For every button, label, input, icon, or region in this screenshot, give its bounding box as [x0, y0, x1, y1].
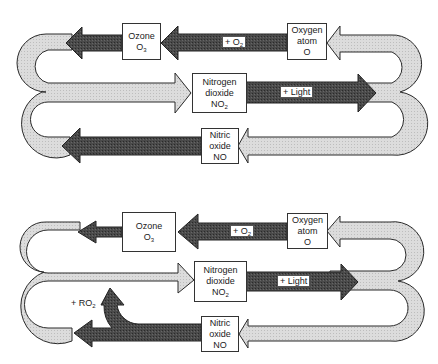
nitric-label: Nitric [210, 130, 231, 141]
oxide-label: oxide [209, 141, 231, 152]
nitric-oxide-box: Nitric oxide NO [201, 128, 239, 164]
ozone-label: Ozone [136, 221, 163, 232]
ozone-box: Ozone O3 [122, 212, 176, 252]
nitrogen-dioxide-box: Nitrogen dioxide NO2 [192, 73, 247, 113]
oxygen-label: Oxygen [292, 215, 323, 226]
arrow-no-to-left [74, 288, 201, 347]
oxygen-atom-box: Oxygen atom O [287, 23, 327, 60]
atom-label: atom [297, 226, 317, 237]
oxygen-atom-box: Oxygen atom O [287, 213, 328, 249]
nitrogen-label: Nitrogen [202, 77, 236, 88]
arrow-ozone-to-left [78, 221, 122, 243]
dioxide-label: dioxide [206, 276, 235, 287]
no-formula: NO [213, 152, 227, 163]
no2-formula: NO2 [212, 287, 229, 298]
oxygen-formula: O [303, 47, 310, 58]
atom-label: atom [297, 36, 317, 47]
nitric-label: Nitric [210, 318, 231, 329]
no2-formula: NO2 [211, 99, 228, 110]
arrow-no-to-left [62, 128, 201, 163]
plus-o2-label: + O2 [222, 36, 246, 48]
oxygen-label: Oxygen [291, 25, 322, 36]
nitrogen-dioxide-box: Nitrogen dioxide NO2 [194, 261, 247, 302]
ozone-formula: O3 [136, 42, 146, 53]
ozone-box: Ozone O3 [122, 23, 161, 60]
ozone-label: Ozone [128, 31, 155, 42]
plus-ro2-label: + RO2 [71, 298, 96, 308]
dioxide-label: dioxide [205, 88, 234, 99]
arrow-ozone-to-left [66, 27, 122, 59]
plus-light-label: + Light [280, 86, 313, 98]
oxygen-formula: O [304, 237, 311, 248]
ozone-formula: O3 [144, 232, 154, 243]
nitric-oxide-box: Nitric oxide NO [201, 316, 239, 352]
plus-light-label: + Light [277, 275, 310, 287]
plus-o2-label: + O2 [230, 225, 254, 237]
diagram-canvas [0, 0, 438, 364]
oxide-label: oxide [209, 329, 231, 340]
nitrogen-label: Nitrogen [203, 265, 237, 276]
no-formula: NO [213, 340, 227, 351]
